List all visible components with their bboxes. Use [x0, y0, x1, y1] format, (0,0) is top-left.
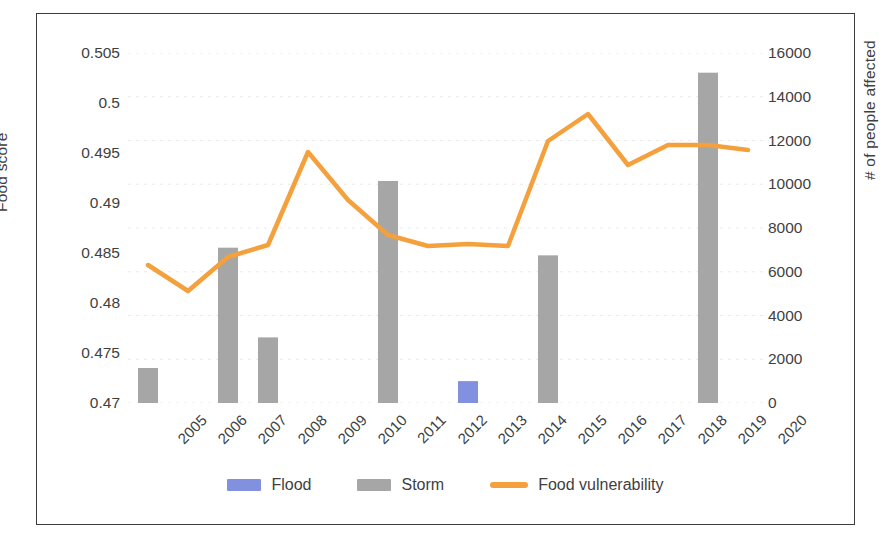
x-axis-ticks: 2005200620072008200920102011201220132014… — [0, 0, 891, 540]
x-tick-label-2010: 2010 — [374, 411, 410, 447]
x-tick-label-2017: 2017 — [654, 411, 690, 447]
x-tick-label-2019: 2019 — [734, 411, 770, 447]
x-tick-label-2008: 2008 — [294, 411, 330, 447]
x-tick-label-2016: 2016 — [614, 411, 650, 447]
x-tick-label-2015: 2015 — [574, 411, 610, 447]
chart-legend: FloodStormFood vulnerability — [36, 476, 855, 494]
legend-label: Flood — [271, 476, 311, 494]
x-tick-label-2013: 2013 — [494, 411, 530, 447]
x-tick-label-2005: 2005 — [174, 411, 210, 447]
legend-swatch-icon — [490, 482, 528, 488]
legend-item-storm[interactable]: Storm — [357, 476, 444, 494]
x-tick-label-2020: 2020 — [774, 411, 810, 447]
x-tick-label-2012: 2012 — [454, 411, 490, 447]
legend-item-food-vulnerability[interactable]: Food vulnerability — [490, 476, 663, 494]
legend-swatch-icon — [357, 479, 391, 491]
x-tick-label-2014: 2014 — [534, 411, 570, 447]
legend-label: Food vulnerability — [538, 476, 663, 494]
x-tick-label-2011: 2011 — [414, 411, 449, 446]
legend-swatch-icon — [227, 479, 261, 491]
chart-figure: Food score # of people affected 0.470.47… — [0, 0, 891, 540]
x-tick-label-2018: 2018 — [694, 411, 730, 447]
x-tick-label-2007: 2007 — [254, 411, 290, 447]
x-tick-label-2006: 2006 — [214, 411, 250, 447]
x-tick-label-2009: 2009 — [334, 411, 370, 447]
legend-label: Storm — [401, 476, 444, 494]
legend-item-flood[interactable]: Flood — [227, 476, 311, 494]
